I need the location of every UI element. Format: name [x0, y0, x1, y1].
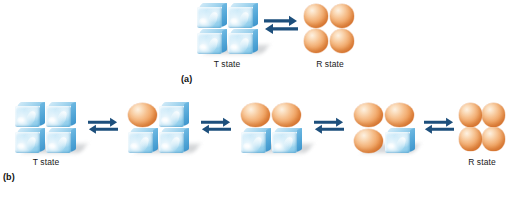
panel-a-r-state-assembly: [303, 3, 355, 53]
subunit-sphere: [303, 28, 329, 53]
panel-a: T state R state (a): [0, 0, 508, 92]
subunit-cube: [384, 128, 415, 154]
subunit-cube: [227, 3, 258, 29]
subunit-cube: [158, 102, 189, 128]
subunit-cube: [196, 3, 227, 29]
subunit-sphere: [329, 28, 355, 53]
figure-canvas: T state R state (a): [0, 0, 508, 213]
subunit-cube: [45, 128, 76, 154]
panel-b-label: (b): [3, 172, 15, 182]
subunit-sphere: [271, 102, 302, 128]
stage-two-spheres: [240, 102, 302, 154]
equilibrium-arrow: [314, 116, 344, 134]
subunit-cube: [127, 128, 158, 154]
stage-three-spheres: [353, 102, 415, 154]
panel-b: T state R state (b): [0, 92, 508, 213]
equilibrium-arrow: [264, 14, 298, 34]
subunit-sphere: [459, 127, 482, 151]
panel-b-t-state-label: T state: [0, 157, 92, 167]
equilibrium-arrow: [424, 116, 454, 134]
panel-a-t-state-assembly: [196, 3, 258, 55]
subunit-cube: [227, 29, 258, 55]
equilibrium-arrow: [201, 116, 231, 134]
subunit-sphere: [482, 127, 505, 151]
stage-one-sphere: [127, 102, 189, 154]
subunit-sphere: [329, 3, 355, 28]
subunit-sphere: [303, 3, 329, 28]
subunit-sphere: [384, 102, 415, 128]
subunit-cube: [196, 29, 227, 55]
subunit-cube: [14, 102, 45, 128]
subunit-sphere: [240, 102, 271, 128]
panel-b-r-state-label: R state: [436, 157, 508, 167]
subunit-cube: [158, 128, 189, 154]
subunit-cube: [271, 128, 302, 154]
subunit-cube: [14, 128, 45, 154]
stage-r-state: [459, 103, 505, 151]
subunit-cube: [45, 102, 76, 128]
panel-a-t-state-label: T state: [181, 59, 273, 69]
subunit-cube: [240, 128, 271, 154]
panel-a-r-state-label: R state: [284, 59, 376, 69]
equilibrium-arrow: [88, 116, 118, 134]
subunit-sphere: [353, 102, 384, 128]
subunit-sphere: [353, 128, 384, 154]
subunit-sphere: [127, 102, 158, 128]
subunit-sphere: [459, 103, 482, 127]
panel-a-label: (a): [181, 74, 192, 84]
subunit-sphere: [482, 103, 505, 127]
stage-t-state: [14, 102, 76, 154]
